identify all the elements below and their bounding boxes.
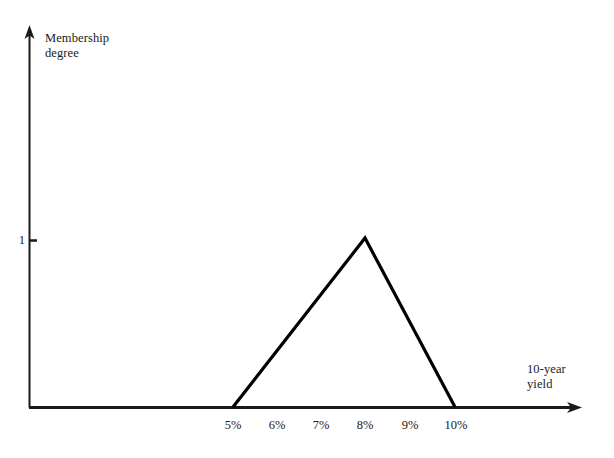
x-axis-title: 10-year yield (527, 362, 566, 391)
x-tick-label-6pct: 6% (269, 419, 286, 432)
x-tick-label-9pct: 9% (402, 419, 419, 432)
chart-graphics (0, 0, 614, 458)
x-tick-label-10pct: 10% (445, 419, 468, 432)
x-tick-label-8pct: 8% (357, 419, 374, 432)
chart-canvas: Membership degree 10-year yield 1 5% 6% … (0, 0, 614, 458)
y-tick-label-1: 1 (8, 234, 25, 247)
membership-function-curve (233, 238, 455, 407)
x-tick-label-5pct: 5% (225, 419, 242, 432)
x-tick-label-7pct: 7% (313, 419, 330, 432)
y-axis-title: Membership degree (45, 31, 109, 60)
